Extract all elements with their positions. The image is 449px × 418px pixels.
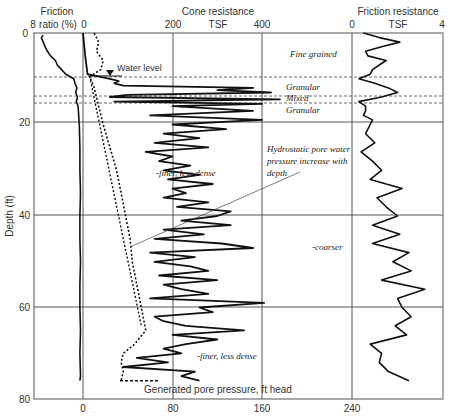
water-level-label: Water level [117,63,162,73]
depth-tick-40: 40 [19,210,31,221]
bottom-tick-160: 160 [254,403,271,414]
depth-tick-20: 20 [19,117,31,128]
hydrostatic-line [90,77,142,326]
coarser-label: -coarser [312,242,343,252]
friction-ratio-tick-0: 0 [81,19,87,30]
cone-resistance-line [83,33,280,381]
cpt-log-chart: Friction 8 ratio (%) 0 Cone resistance 2… [0,0,449,418]
header-friction-ratio: Friction 8 ratio (%) 0 [30,6,87,30]
depth-axis-label: Depth (ft) [4,195,15,237]
finer-less-dense-label-2: -finer, less dense [197,351,257,361]
depth-tick-60: 60 [19,302,31,313]
header-cone-resistance: Cone resistance 200 TSF 400 [165,6,271,30]
finer-less-dense-label-1: -finer, less dense [156,168,216,178]
series-layer [41,33,424,381]
cone-resistance-tick-200: 200 [165,19,182,30]
hydrostatic-label-line2: pressure increase with [266,156,348,166]
friction-resistance-header-line1: Friction resistance [357,6,439,17]
friction-ratio-tick-8: 8 [30,19,36,30]
hydrostatic-pointer-line [130,172,300,247]
hydrostatic-label-line1: Hydrostatic pore water [266,144,351,154]
header-friction-resistance: Friction resistance 0 TSF 4 [349,6,445,30]
cone-resistance-tick-400: 400 [254,19,271,30]
layer-label-fine-grained: Fine grained [289,49,337,59]
cone-resistance-header-line2: TSF [209,19,228,30]
hydrostatic-label-line3: depth [267,168,287,178]
water-level-triangle-icon [106,70,114,76]
bottom-axis-label: Generated pore pressure, ft head [144,384,292,395]
bottom-tick-240: 240 [344,403,361,414]
friction-resistance-line [359,33,425,381]
depth-axis: Depth (ft) 0 20 40 60 80 [4,28,30,405]
cone-resistance-header-line1: Cone resistance [182,6,255,17]
depth-tick-80: 80 [19,394,31,405]
layer-labels: Fine grained Granular Mixed Granular [285,49,337,115]
friction-resistance-tick-4: 4 [439,19,445,30]
layer-label-granular-2: Granular [286,105,321,115]
friction-resistance-header-line2: TSF [389,19,408,30]
friction-ratio-header-line2: ratio (%) [39,19,77,30]
bottom-tick-80: 80 [167,403,179,414]
bottom-tick-0: 0 [80,403,86,414]
friction-ratio-header-line1: Friction [41,6,74,17]
friction-resistance-tick-0: 0 [349,19,355,30]
layer-label-mixed: Mixed [285,93,309,103]
depth-tick-0: 0 [22,28,28,39]
layer-label-granular-1: Granular [286,82,321,92]
friction-ratio-line [41,35,80,380]
